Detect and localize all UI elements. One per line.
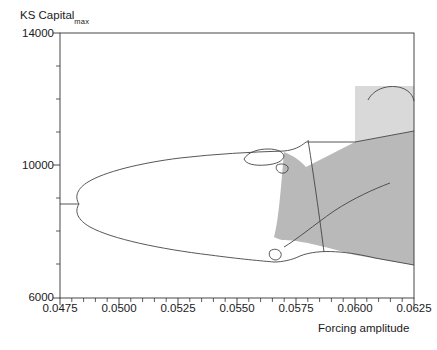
plot-canvas	[0, 0, 437, 350]
shaded-regions	[274, 86, 414, 265]
chaotic-band-region	[274, 131, 414, 265]
x-axis-major-ticks	[60, 298, 414, 305]
upper-periodic-branch-curve	[77, 151, 284, 204]
bifurcation-diagram-figure: KS Capitalmax 14000 10000 6000 0.0475 0.…	[0, 0, 437, 350]
y-axis-major-ticks	[53, 33, 60, 298]
lower-bubble-curve	[269, 249, 281, 260]
lower-periodic-branch-curve	[77, 204, 274, 262]
